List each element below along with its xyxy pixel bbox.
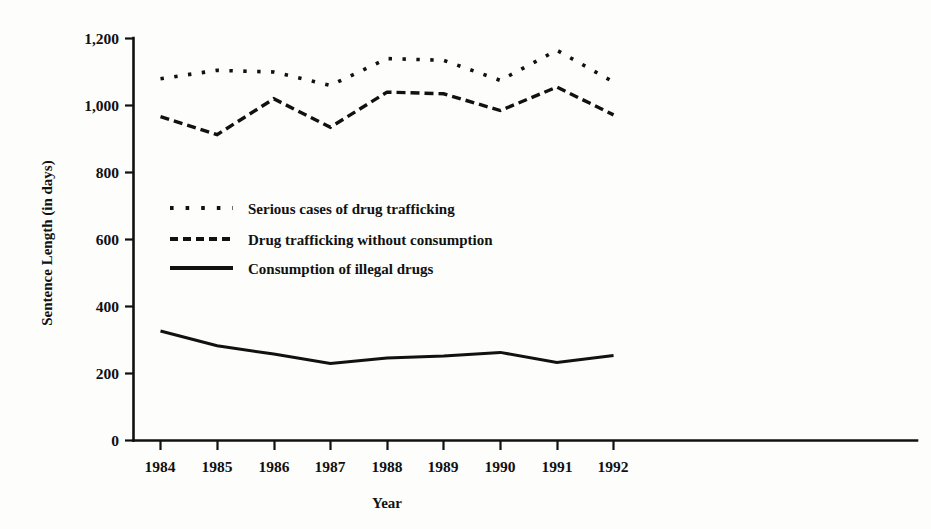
x-tick-label: 1985 xyxy=(202,458,233,475)
x-tick-label: 1992 xyxy=(598,458,629,475)
legend-label-0: Serious cases of drug trafficking xyxy=(248,201,455,217)
x-tick-label: 1986 xyxy=(259,458,290,475)
y-tick-label: 400 xyxy=(96,298,120,315)
y-tick-label: 0 xyxy=(111,432,119,449)
chart-canvas: 1,200 1,000 800 600 400 200 0 1984 1985 … xyxy=(0,0,931,529)
x-tick-label: 1988 xyxy=(372,458,403,475)
legend-label-1: Drug trafficking without consumption xyxy=(248,232,493,248)
x-tick-label: 1984 xyxy=(145,458,176,475)
x-tick-label: 1987 xyxy=(315,458,346,475)
chart-background xyxy=(0,0,931,529)
y-tick-label: 600 xyxy=(96,231,120,248)
y-tick-label: 1,200 xyxy=(84,30,119,47)
legend-label-2: Consumption of illegal drugs xyxy=(248,261,434,277)
x-tick-label: 1989 xyxy=(428,458,459,475)
y-tick-label: 1,000 xyxy=(84,97,119,114)
y-axis-title: Sentence Length (in days) xyxy=(39,160,56,325)
x-tick-label: 1990 xyxy=(485,458,516,475)
x-axis-tick-labels: 1984 1985 1986 1987 1988 1989 1990 1991 … xyxy=(145,458,629,475)
x-axis-title: Year xyxy=(372,495,402,511)
y-tick-label: 800 xyxy=(96,164,120,181)
x-tick-label: 1991 xyxy=(542,458,573,475)
y-tick-label: 200 xyxy=(96,365,120,382)
line-chart: 1,200 1,000 800 600 400 200 0 1984 1985 … xyxy=(0,0,931,529)
